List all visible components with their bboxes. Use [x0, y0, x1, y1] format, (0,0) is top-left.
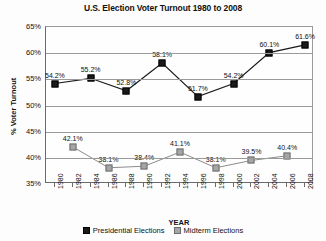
- y-tick-label: 50%: [26, 100, 41, 109]
- data-label: 39.5%: [242, 148, 262, 155]
- x-tick: [143, 183, 144, 187]
- y-tick-label: 60%: [26, 48, 41, 57]
- x-tick: [90, 183, 91, 187]
- legend-swatch-icon: [174, 227, 181, 234]
- legend-label: Presidential Elections: [93, 226, 165, 235]
- x-tick-label: 1980: [57, 173, 64, 189]
- data-point: [51, 80, 58, 87]
- chart-title: U.S. Election Voter Turnout 1980 to 2008: [0, 3, 326, 13]
- data-label: 42.1%: [63, 135, 83, 142]
- gridline: [46, 158, 312, 159]
- gridline: [46, 79, 312, 80]
- x-tick-label: 1988: [128, 173, 135, 189]
- gridline: [46, 132, 312, 133]
- data-point: [105, 164, 112, 171]
- x-tick-label: 2008: [307, 173, 314, 189]
- plot-area: 54.2%55.2%52.8%58.1%51.7%54.2%60.1%61.6%…: [45, 26, 313, 183]
- x-tick: [304, 183, 305, 187]
- data-point: [177, 149, 184, 156]
- data-point: [141, 163, 148, 170]
- x-tick: [197, 183, 198, 187]
- data-label: 40.4%: [277, 144, 297, 151]
- data-point: [302, 41, 309, 48]
- x-tick: [233, 183, 234, 187]
- x-tick: [125, 183, 126, 187]
- data-label: 61.6%: [295, 33, 315, 40]
- data-label: 54.2%: [224, 72, 244, 79]
- y-tick-label: 40%: [26, 152, 41, 161]
- legend-item[interactable]: Midterm Elections: [174, 226, 244, 235]
- gridline: [46, 53, 312, 54]
- x-tick: [108, 183, 109, 187]
- x-tick-label: 2000: [236, 173, 243, 189]
- data-point: [212, 164, 219, 171]
- data-label: 54.2%: [45, 72, 65, 79]
- x-tick-label: 2004: [271, 173, 278, 189]
- data-label: 60.1%: [259, 41, 279, 48]
- data-label: 55.2%: [81, 66, 101, 73]
- x-tick-label: 1986: [111, 173, 118, 189]
- data-point: [69, 143, 76, 150]
- data-label: 58.1%: [152, 51, 172, 58]
- y-axis-tick-labels: 65%60%55%50%45%40%35%: [0, 0, 41, 241]
- chart-legend: Presidential ElectionsMidterm Elections: [0, 226, 326, 235]
- x-tick: [72, 183, 73, 187]
- y-tick-label: 65%: [26, 22, 41, 31]
- x-tick: [286, 183, 287, 187]
- x-tick-label: 1992: [164, 173, 171, 189]
- x-tick-label: 1982: [75, 173, 82, 189]
- data-point: [159, 60, 166, 67]
- x-tick-label: 1990: [146, 173, 153, 189]
- x-tick: [161, 183, 162, 187]
- x-tick-label: 2002: [253, 173, 260, 189]
- x-tick-label: 1994: [182, 173, 189, 189]
- x-tick: [54, 183, 55, 187]
- x-tick-label: 1998: [218, 173, 225, 189]
- data-label: 51.7%: [188, 85, 208, 92]
- x-tick: [250, 183, 251, 187]
- x-tick-label: 1996: [200, 173, 207, 189]
- legend-label: Midterm Elections: [184, 226, 244, 235]
- data-label: 38.1%: [206, 156, 226, 163]
- x-tick: [215, 183, 216, 187]
- y-tick-label: 45%: [26, 126, 41, 135]
- y-tick-label: 35%: [26, 179, 41, 188]
- y-tick-label: 55%: [26, 74, 41, 83]
- legend-item[interactable]: Presidential Elections: [83, 226, 165, 235]
- x-tick: [179, 183, 180, 187]
- data-label: 41.1%: [170, 140, 190, 147]
- x-tick-label: 1984: [93, 173, 100, 189]
- data-label: 38.1%: [99, 156, 119, 163]
- legend-swatch-icon: [83, 227, 90, 234]
- data-point: [194, 93, 201, 100]
- gridline: [46, 106, 312, 107]
- x-tick-label: 2006: [289, 173, 296, 189]
- voter-turnout-chart: U.S. Election Voter Turnout 1980 to 2008…: [0, 0, 326, 241]
- data-point: [87, 75, 94, 82]
- data-point: [230, 80, 237, 87]
- x-tick: [268, 183, 269, 187]
- data-point: [123, 87, 130, 94]
